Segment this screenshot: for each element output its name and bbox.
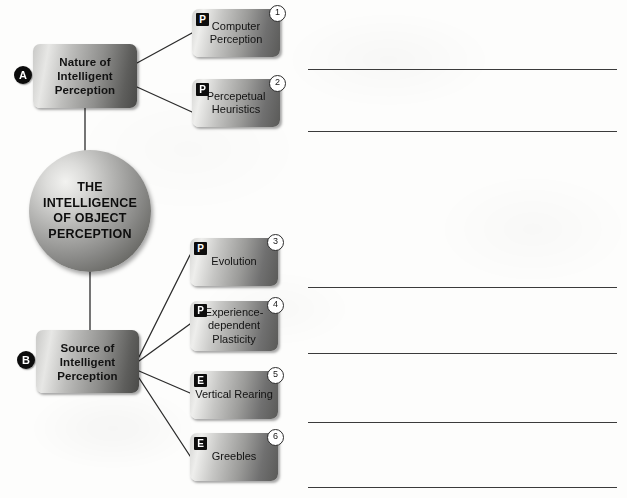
node-evolution-label: Evolution <box>207 255 260 269</box>
center-node-label: THE INTELLIGENCE OF OBJECT PERCEPTION <box>29 180 151 242</box>
number-badge-5[interactable]: 5 <box>267 367 284 384</box>
note-line-3[interactable] <box>308 287 617 288</box>
node-nature-label: Nature of Intelligent Perception <box>33 55 137 97</box>
type-tag-p-2: P <box>196 83 209 96</box>
number-badge-1[interactable]: 1 <box>269 5 286 22</box>
type-tag-p-1: P <box>196 13 209 26</box>
number-badge-6[interactable]: 6 <box>267 429 284 446</box>
note-line-2[interactable] <box>308 131 617 132</box>
node-nature-of-intelligent-perception[interactable]: Nature of Intelligent Perception <box>33 44 137 108</box>
connector-b-branch-5 <box>139 371 190 393</box>
number-badge-2[interactable]: 2 <box>269 75 286 92</box>
node-greebles-label: Greebles <box>208 450 261 464</box>
connector-b-branch-4 <box>139 324 190 361</box>
type-tag-p-3: P <box>194 242 207 255</box>
number-badge-4[interactable]: 4 <box>267 297 284 314</box>
center-node[interactable]: THE INTELLIGENCE OF OBJECT PERCEPTION <box>29 150 151 272</box>
concept-map-page: THE INTELLIGENCE OF OBJECT PERCEPTION A … <box>0 0 627 498</box>
connector-a-branch-1 <box>137 33 192 63</box>
note-line-5[interactable] <box>308 422 617 423</box>
number-badge-3[interactable]: 3 <box>267 234 284 251</box>
type-tag-p-4: P <box>194 304 207 317</box>
node-source-label: Source of Intelligent Perception <box>36 341 139 383</box>
section-badge-a[interactable]: A <box>14 66 32 84</box>
node-vertical-rearing-label: Vertical Rearing <box>191 388 277 402</box>
connector-b-branch-6 <box>139 378 190 456</box>
section-badge-b[interactable]: B <box>17 351 35 369</box>
note-line-1[interactable] <box>308 69 617 70</box>
note-line-6[interactable] <box>308 487 617 488</box>
node-source-of-intelligent-perception[interactable]: Source of Intelligent Perception <box>36 330 139 393</box>
note-line-4[interactable] <box>308 353 617 354</box>
connector-b-branch-3 <box>139 255 190 357</box>
type-tag-e-6: E <box>194 437 207 450</box>
type-tag-e-5: E <box>194 374 207 387</box>
connector-a-branch-2 <box>137 87 192 112</box>
